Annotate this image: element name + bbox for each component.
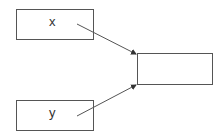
edge-y-to-output: [77, 85, 136, 116]
edges-layer: [0, 0, 224, 137]
edge-x-to-output: [77, 24, 136, 54]
